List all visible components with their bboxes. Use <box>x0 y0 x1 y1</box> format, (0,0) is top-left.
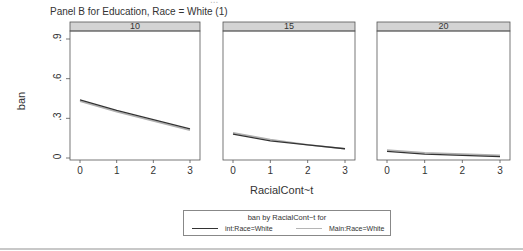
legend: ban by RacialCont~t for int:Race=White M… <box>183 210 391 236</box>
legend-label-main: Main:Race=White <box>329 225 384 232</box>
x-tick-label: 0 <box>77 165 83 176</box>
x-tick-label: 0 <box>230 165 236 176</box>
panel-strip-label: 15 <box>284 21 294 31</box>
legend-item-int: int:Race=White <box>192 225 273 232</box>
panel-strip-label: 20 <box>438 21 448 31</box>
x-tick-label: 3 <box>187 165 193 176</box>
x-tick-label: 2 <box>460 165 466 176</box>
x-tick-label: 2 <box>305 165 311 176</box>
x-axis-title: RacialCont~t <box>250 184 313 196</box>
x-tick-label: 1 <box>268 165 274 176</box>
x-tick-label: 3 <box>497 165 503 176</box>
y-tick-label: .9 <box>52 31 63 45</box>
x-tick-label: 0 <box>384 165 390 176</box>
panel-20: 200123 <box>377 21 510 176</box>
panel-15: 150123 <box>223 21 355 176</box>
x-tick-label: 3 <box>342 165 348 176</box>
panel-strip-label: 10 <box>130 21 140 31</box>
bottom-divider <box>0 248 523 250</box>
legend-label-int: int:Race=White <box>225 225 273 232</box>
panel-frame <box>377 31 510 160</box>
x-tick-label: 1 <box>422 165 428 176</box>
panel-frame <box>70 31 200 160</box>
legend-swatch-main <box>296 228 322 229</box>
panel-frame <box>223 31 355 160</box>
panel-10: 100123 <box>70 21 200 176</box>
series-int-line <box>80 100 190 129</box>
x-tick-label: 1 <box>114 165 120 176</box>
y-tick-label: 0 <box>52 150 63 164</box>
y-tick-label: .6 <box>52 70 63 84</box>
legend-swatch-int <box>192 228 218 229</box>
legend-title: ban by RacialCont~t for <box>184 213 390 222</box>
x-tick-label: 2 <box>151 165 157 176</box>
legend-item-main: Main:Race=White <box>296 225 384 232</box>
y-tick-label: .3 <box>52 110 63 124</box>
